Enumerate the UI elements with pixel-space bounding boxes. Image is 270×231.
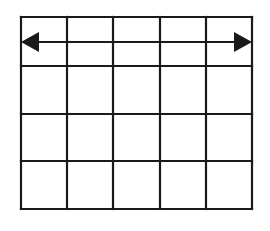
- arrow-head-left-icon: [21, 32, 39, 52]
- grid-diagram: [0, 0, 270, 231]
- arrow-head-right-icon: [234, 32, 252, 52]
- grid-lines: [21, 17, 252, 209]
- double-arrow: [21, 32, 252, 52]
